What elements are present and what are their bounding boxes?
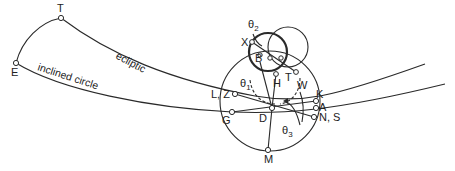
label-t: T xyxy=(57,2,64,14)
point-lz xyxy=(232,91,237,96)
point-h xyxy=(274,72,279,77)
point-ns xyxy=(311,114,316,119)
label-b: B xyxy=(255,52,262,64)
point-t xyxy=(58,15,63,20)
epicycle-thin xyxy=(268,27,308,67)
diagram-canvas: ecliptic inclined circle T E X B T H W K… xyxy=(0,0,455,171)
label-d: D xyxy=(259,112,267,124)
ecliptic-label: ecliptic xyxy=(114,49,148,75)
point-x xyxy=(250,40,255,45)
label-lz: L, Z xyxy=(211,88,230,100)
label-h: H xyxy=(273,77,281,89)
point-c2 xyxy=(279,56,283,60)
line-b-d xyxy=(260,62,272,108)
label-ns: N, S xyxy=(319,111,340,123)
point-d xyxy=(269,105,274,110)
theta3-pointer-2 xyxy=(300,92,303,122)
label-m: M xyxy=(264,153,273,165)
dashed-arc-theta1 xyxy=(250,80,275,104)
arc-e-t xyxy=(16,18,61,63)
label-x: X xyxy=(241,36,249,48)
line-d-m xyxy=(268,108,272,150)
theta3-pointer xyxy=(286,102,300,125)
label-w: W xyxy=(297,79,308,91)
label-g: G xyxy=(222,114,231,126)
label-k: K xyxy=(316,88,324,100)
point-e xyxy=(13,60,18,65)
point-c xyxy=(268,56,272,60)
point-a xyxy=(313,105,318,110)
label-e: E xyxy=(11,66,18,78)
point-m xyxy=(265,147,270,152)
theta1-label: θ1 xyxy=(240,77,251,92)
theta3-label: θ3 xyxy=(282,124,293,139)
point-tc xyxy=(294,70,299,75)
theta2-label: θ2 xyxy=(248,18,259,33)
inclined-circle-label: inclined circle xyxy=(36,60,100,91)
label-tc: T xyxy=(285,71,292,83)
